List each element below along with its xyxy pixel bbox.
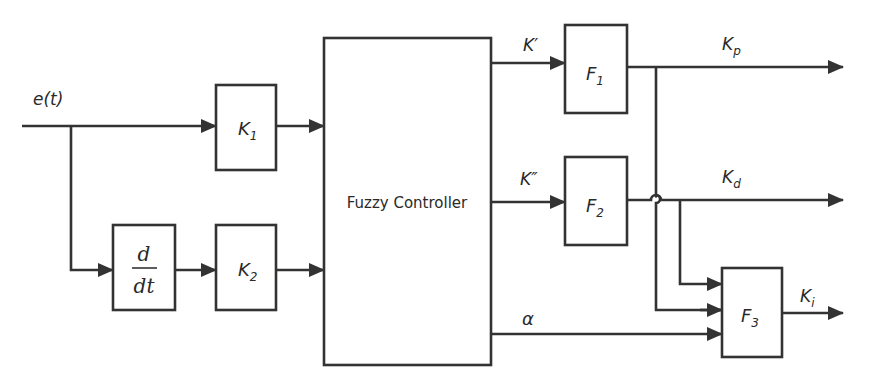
- derivative-denominator: dt: [134, 274, 156, 298]
- derivative-numerator: d: [138, 242, 151, 266]
- wire-branch-to-derivative: [71, 126, 113, 270]
- fuzzy-controller-label: Fuzzy Controller: [347, 194, 468, 212]
- k-prime-label: K′: [523, 35, 538, 55]
- kp-label: Kp: [722, 34, 741, 58]
- block-k2: K2: [216, 225, 276, 310]
- block-derivative: d dt: [113, 225, 175, 310]
- wire-kp-branch-to-f3: [656, 67, 722, 310]
- block-fuzzy-controller: Fuzzy Controller: [324, 38, 491, 365]
- fuzzy-pid-diagram: e(t) K1 d dt K2 Fuzzy Controller K′ F1 K…: [0, 0, 871, 383]
- input-label: e(t): [33, 89, 63, 109]
- alpha-label: α: [522, 308, 534, 329]
- block-k1: K1: [216, 85, 276, 170]
- block-f2: F2: [565, 157, 627, 245]
- ki-label: Ki: [800, 286, 815, 310]
- wire-kd-branch-to-f3: [680, 200, 722, 284]
- block-f1: F1: [565, 25, 627, 113]
- k-double-prime-label: K″: [520, 169, 538, 189]
- kd-label: Kd: [722, 167, 741, 191]
- block-f3: F3: [722, 268, 782, 357]
